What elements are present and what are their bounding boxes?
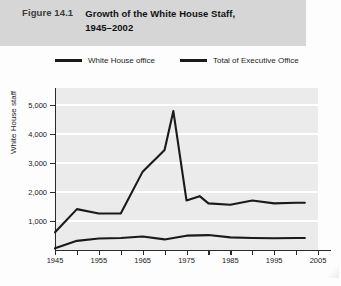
series-line-total-of-executive-office [55, 111, 305, 232]
bottom-caption [14, 277, 314, 286]
page-corner-smudge [321, 264, 339, 278]
figure-container: Figure 14.1 Growth of the White House St… [0, 0, 341, 286]
series-line-white-house-office [55, 235, 305, 248]
chart-series-layer [0, 0, 341, 286]
